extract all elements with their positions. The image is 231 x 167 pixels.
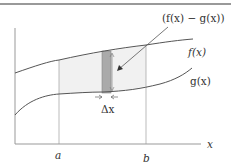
b-label: b xyxy=(143,152,150,164)
a-label: a xyxy=(55,149,61,161)
delta-x-label: Δx xyxy=(101,103,115,115)
x-axis-label: x xyxy=(207,138,213,150)
f-label: f(x) xyxy=(187,46,206,58)
area-between-curves-diagram: (f(x) − g(x)) f(x) g(x) Δx x a b xyxy=(0,0,231,167)
g-label: g(x) xyxy=(190,75,211,87)
delta-x-strip xyxy=(102,51,111,93)
difference-label: (f(x) − g(x)) xyxy=(162,12,225,24)
